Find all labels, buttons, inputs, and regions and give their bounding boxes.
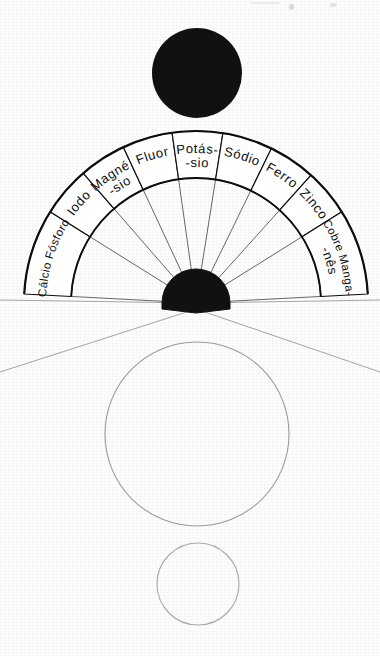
small-outline-circle: [157, 543, 239, 625]
standalone-circles: [105, 28, 289, 625]
guide-line-right-diagonal: [196, 309, 380, 372]
scan-speck: [250, 2, 280, 4]
large-outline-circle: [105, 342, 289, 526]
spoke-potassio: [179, 179, 192, 269]
scan-speck: [330, 3, 337, 7]
spoke-calcio-fosforo: [71, 296, 162, 301]
spoke-ferro: [211, 191, 251, 273]
sector-label-potassio: Potás-: [176, 141, 220, 158]
spoke-iodo: [90, 237, 167, 285]
spoke-sodio: [201, 180, 215, 270]
spoke-cobre-manganes: [225, 237, 302, 285]
sector-label-potassio: -sio: [185, 155, 210, 171]
scan-speck: [289, 4, 294, 10]
spoke-end: [230, 296, 321, 301]
sector-label-magnesio: Magné-: [0, 0, 132, 194]
guide-line-left-diagonal: [0, 309, 196, 372]
spoke-zinco: [219, 210, 280, 278]
mineral-wheel-figure: Cálcio FósforoIodoMagné--sioFluorPotás--…: [0, 0, 380, 656]
spoke-fluor: [143, 190, 181, 272]
spoke-magnesio: [114, 209, 174, 278]
solid-black-circle: [152, 28, 242, 118]
